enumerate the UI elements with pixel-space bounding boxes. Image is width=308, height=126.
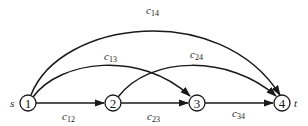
edge-1-4: [31, 31, 280, 95]
node-2: 2: [105, 95, 121, 111]
edge-label-c24: c24: [190, 48, 203, 62]
edge-label-c23: c23: [147, 110, 160, 124]
node-2-label: 2: [110, 96, 117, 111]
source-label: s: [10, 97, 14, 109]
node-1: 1: [20, 95, 36, 111]
node-4: 4: [274, 95, 290, 111]
sink-label: t: [294, 97, 298, 109]
edge-label-c14: c14: [146, 4, 159, 18]
node-4-label: 4: [279, 96, 286, 111]
node-1-label: 1: [25, 96, 32, 111]
edge-label-c34: c34: [232, 107, 245, 121]
edge-1-3: [33, 65, 190, 97]
network-diagram: c12 c23 c34 c13 c24 c14 1 2 3 4 s t: [0, 0, 308, 126]
node-3-label: 3: [194, 96, 201, 111]
edge-label-c13: c13: [104, 50, 117, 64]
node-3: 3: [189, 95, 205, 111]
edge-label-c12: c12: [62, 110, 75, 124]
